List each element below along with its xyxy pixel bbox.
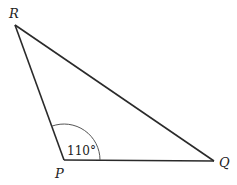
vertex-label-r: R xyxy=(8,6,19,21)
side-rq xyxy=(15,25,214,161)
side-pq xyxy=(64,160,214,161)
triangle-diagram: 110° R P Q xyxy=(0,0,237,185)
side-rp xyxy=(15,25,64,160)
vertex-label-p: P xyxy=(54,166,64,181)
angle-label: 110° xyxy=(67,144,96,158)
vertex-label-q: Q xyxy=(219,155,230,170)
